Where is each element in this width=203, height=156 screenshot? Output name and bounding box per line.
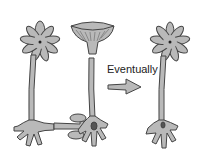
right-stalk: [159, 56, 166, 122]
middle-stalk: [89, 58, 95, 118]
umbrella-cap: [71, 22, 114, 54]
nucleus: [91, 122, 97, 130]
eventually-arrow: [108, 79, 141, 94]
eventually-label: Eventually: [107, 63, 158, 75]
diagram-canvas: [0, 0, 203, 156]
left-stalk: [29, 55, 36, 122]
left-rhizoid: [14, 120, 54, 146]
